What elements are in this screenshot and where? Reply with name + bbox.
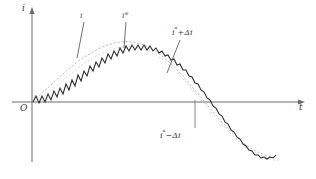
leader-line-right xyxy=(124,22,126,48)
origin-label: O xyxy=(20,104,27,113)
leader-label-left: i xyxy=(80,12,83,20)
envelope-curve-lower xyxy=(35,47,278,161)
lower-bound-label: i*−Δi xyxy=(160,130,180,140)
y-axis-label: i xyxy=(22,4,25,13)
y-axis-arrowhead xyxy=(29,7,34,14)
leader-label-right: i* xyxy=(122,12,129,20)
lower-bound-delta: −Δi xyxy=(165,131,180,140)
leader-line-left xyxy=(77,22,84,58)
upper-bound-label: i*+Δi xyxy=(172,27,192,37)
figure-canvas xyxy=(0,0,316,179)
x-axis-label: t xyxy=(299,103,303,112)
upper-bound-delta: +Δi xyxy=(177,28,192,37)
envelope-curve xyxy=(33,42,276,158)
figure-container: i t O i*+Δi i*−Δi i i* xyxy=(0,0,316,179)
